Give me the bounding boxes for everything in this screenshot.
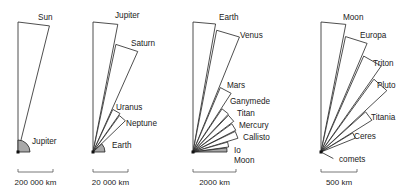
disc-jupiter [18,140,30,152]
scale-label: 500 km [326,178,353,187]
label-neptune: Neptune [126,119,157,128]
label-mars: Mars [227,81,245,90]
wedge-comets [321,152,333,159]
label-triton: Triton [373,59,394,68]
origin-dot [17,151,20,154]
label-ganymede: Ganymede [230,97,270,106]
panel-3: EarthVenusMarsGanymedeTitanMercuryCallis… [192,13,271,187]
label-ceres: Ceres [354,132,376,141]
label-uranus: Uranus [116,103,142,112]
size-comparison-diagram: SunJupiter200 000 kmJupiterSaturnUranusN… [0,0,409,195]
label-earth: Earth [112,141,132,150]
panel-1: SunJupiter200 000 km [15,13,57,187]
label-saturn: Saturn [131,39,156,48]
scale-bar [18,169,53,172]
scale-bar [93,169,128,172]
wedge-sun [18,22,49,152]
label-comets: comets [339,155,365,164]
label-io: Io [234,146,241,155]
label-jupiter: Jupiter [115,11,140,20]
label-titan: Titan [237,109,255,118]
label-venus: Venus [240,31,263,40]
scale-label: 2000 km [199,178,230,187]
scale-label: 200 000 km [15,178,57,187]
label-moon: Moon [343,13,364,22]
label-earth: Earth [219,13,239,22]
label-sun: Sun [38,13,53,22]
label-callisto: Callisto [243,133,270,142]
panel-2: JupiterSaturnUranusNeptuneEarth20 000 km [92,11,158,187]
label-moon: Moon [234,156,255,165]
origin-dot [320,151,323,154]
origin-dot [192,151,195,154]
scale-bar [193,169,236,172]
panel-4: MoonEuropaTritonPlutoTitaniaCerescomets5… [320,13,397,187]
origin-dot [92,151,95,154]
scale-label: 20 000 km [92,178,130,187]
label-mercury: Mercury [239,121,269,130]
label-jupiter: Jupiter [32,137,57,146]
label-europa: Europa [360,31,387,40]
scale-bar [321,169,357,172]
label-pluto: Pluto [377,81,396,90]
label-titania: Titania [371,113,396,122]
